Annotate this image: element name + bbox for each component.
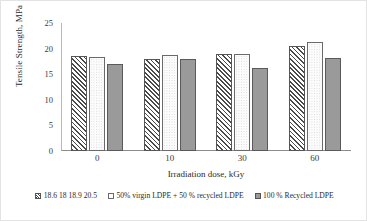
- legend-swatch-icon-1: [108, 193, 114, 199]
- legend-label-1: 50% virgin LDPE + 50 % recycled LDPE: [116, 191, 243, 200]
- legend-swatch-icon-0: [35, 193, 41, 199]
- y-axis-ticks: 25 20 15 10 5 0: [1, 23, 57, 151]
- x-axis-ticks: 0 10 30 60: [61, 153, 351, 167]
- bar-series1-cat2[interactable]: [234, 54, 250, 151]
- legend-swatch-icon-2: [255, 193, 261, 199]
- bar-group-1: [134, 23, 207, 151]
- y-tick-20: 20: [27, 45, 53, 54]
- x-tick-30: 30: [206, 153, 279, 167]
- y-tick-0: 0: [27, 147, 53, 156]
- bar-group-2: [206, 23, 279, 151]
- bar-series0-cat2[interactable]: [216, 54, 232, 151]
- bar-series1-cat0[interactable]: [89, 57, 105, 151]
- plot-area: [61, 23, 351, 151]
- chart-figure: 25 20 15 10 5 0 Tensile Strength, MPa: [0, 0, 367, 221]
- x-tick-0: 0: [61, 153, 134, 167]
- x-axis-title: Irradiation dose, kGy: [61, 169, 351, 179]
- bar-series2-cat3[interactable]: [325, 58, 341, 151]
- bar-series0-cat3[interactable]: [289, 46, 305, 151]
- y-axis-title: Tensile Strength, MPa: [14, 0, 24, 111]
- bar-series1-cat3[interactable]: [307, 42, 323, 151]
- bar-series0-cat0[interactable]: [71, 56, 87, 151]
- bar-series2-cat0[interactable]: [107, 64, 123, 151]
- bar-series1-cat1[interactable]: [162, 55, 178, 151]
- legend-label-0: 18.6 18 18.9 20.5: [44, 191, 97, 200]
- y-tick-15: 15: [27, 70, 53, 79]
- legend-item-2[interactable]: 100 % Recycled LDPE: [255, 191, 334, 200]
- chart-legend: 18.6 18 18.9 20.5 50% virgin LDPE + 50 %…: [1, 191, 367, 200]
- x-tick-10: 10: [134, 153, 207, 167]
- y-tick-5: 5: [27, 121, 53, 130]
- legend-item-0[interactable]: 18.6 18 18.9 20.5: [35, 191, 97, 200]
- x-tick-60: 60: [279, 153, 352, 167]
- bar-group-3: [279, 23, 352, 151]
- y-tick-10: 10: [27, 96, 53, 105]
- bar-series2-cat1[interactable]: [180, 59, 196, 151]
- bar-series2-cat2[interactable]: [252, 68, 268, 151]
- bar-group-0: [61, 23, 134, 151]
- bar-groups: [61, 23, 351, 151]
- y-tick-25: 25: [27, 19, 53, 28]
- legend-label-2: 100 % Recycled LDPE: [263, 191, 334, 200]
- bar-series0-cat1[interactable]: [144, 59, 160, 151]
- legend-item-1[interactable]: 50% virgin LDPE + 50 % recycled LDPE: [108, 191, 244, 200]
